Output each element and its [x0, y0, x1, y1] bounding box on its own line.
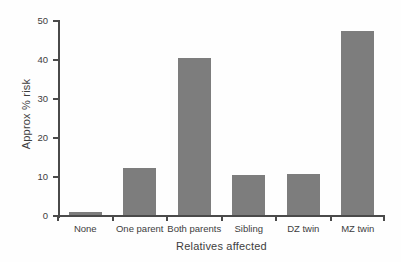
bar-sibling	[232, 175, 265, 216]
x-axis-category-label: One parent	[116, 224, 164, 234]
x-axis-category-label: None	[74, 224, 97, 234]
bar-dz-twin	[287, 174, 320, 216]
x-axis-tick	[112, 215, 114, 221]
bar-chart: Approx % risk 01020304050 NoneOne parent…	[0, 0, 401, 262]
x-axis-category-label: Sibling	[234, 224, 263, 234]
bar-both-parents	[178, 58, 211, 216]
x-axis-tick	[275, 215, 277, 221]
x-axis-tick	[330, 215, 332, 221]
bar-one-parent	[123, 168, 156, 216]
x-axis-category-label: MZ twin	[341, 224, 374, 234]
x-axis-tick	[383, 215, 385, 221]
x-axis-tick	[166, 215, 168, 221]
x-axis-tick	[57, 215, 59, 221]
x-axis-tick	[221, 215, 223, 221]
x-axis-category-label: Both parents	[167, 224, 221, 234]
x-axis-category-label: DZ twin	[287, 224, 319, 234]
x-axis-title: Relatives affected	[58, 240, 385, 252]
bar-mz-twin	[341, 31, 374, 216]
